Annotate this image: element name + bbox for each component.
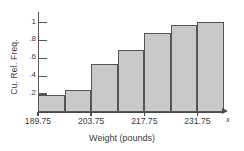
plot-area: [38, 12, 224, 112]
bar-0: [38, 95, 65, 112]
y-axis-title: Cu. Rel. Freq.: [9, 27, 19, 107]
bar-4: [144, 33, 171, 112]
x-axis-title: Weight (pounds): [0, 133, 244, 143]
y-tick-label: .6: [29, 52, 36, 61]
bar-3: [118, 50, 145, 112]
x-tick-label-2: 217.75: [131, 116, 157, 126]
y-tick-label: .8: [29, 34, 36, 43]
x-tick-label-1: 203.75: [78, 116, 104, 126]
x-axis-variable-label: x: [226, 114, 230, 124]
bar-2: [91, 64, 118, 112]
x-tick-1: [90, 112, 91, 116]
bar-5: [171, 25, 198, 113]
x-tick-label-3: 231.75: [184, 116, 210, 126]
y-tick-label: 1: [32, 17, 36, 26]
bar-1: [65, 90, 92, 112]
x-tick-0: [37, 112, 38, 116]
x-tick-label-0: 189.75: [25, 116, 51, 126]
bar-6: [197, 22, 224, 112]
y-tick-label: .4: [29, 70, 36, 79]
x-tick-2: [144, 112, 145, 116]
y-tick-label: .2: [29, 88, 36, 97]
x-tick-3: [197, 112, 198, 116]
cumulative-relative-frequency-histogram: Cu. Rel. Freq. .2.4.6.81 x 189.75203.752…: [0, 0, 244, 151]
